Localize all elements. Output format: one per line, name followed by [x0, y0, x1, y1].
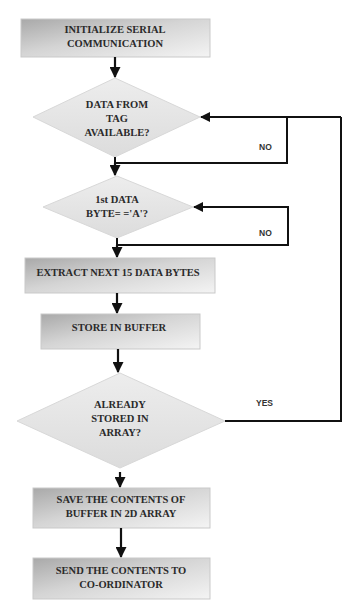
- node-label: STORED IN: [91, 413, 149, 424]
- edge-label-no: NO: [259, 228, 272, 238]
- node-label: EXTRACT NEXT 15 DATA BYTES: [36, 267, 199, 278]
- node-label: DATA FROM: [86, 99, 148, 110]
- node-label: CO-ORDINATOR: [79, 579, 163, 590]
- edge-label-no: NO: [259, 142, 272, 152]
- node-label: SEND THE CONTENTS TO: [56, 565, 186, 576]
- process-initialize-serial: INITIALIZE SERIAL COMMUNICATION: [21, 19, 210, 57]
- process-extract-bytes: EXTRACT NEXT 15 DATA BYTES: [25, 258, 215, 293]
- flowchart: INITIALIZE SERIAL COMMUNICATION DATA FRO…: [0, 0, 358, 609]
- node-label: INITIALIZE SERIAL: [64, 24, 165, 35]
- node-label: STORE IN BUFFER: [72, 322, 167, 333]
- node-label: COMMUNICATION: [67, 38, 163, 49]
- edge-label-yes: YES: [256, 398, 273, 408]
- node-label: 1st DATA: [95, 194, 139, 205]
- node-label: ARRAY?: [99, 427, 141, 438]
- node-label: TAG: [106, 113, 128, 124]
- decision-first-byte: 1st DATA BYTE= ='A'?: [43, 176, 193, 238]
- node-label: BUFFER IN 2D ARRAY: [66, 508, 177, 519]
- node-label: BYTE= ='A'?: [86, 208, 148, 219]
- node-label: ALREADY: [94, 399, 146, 410]
- decision-data-available: DATA FROM TAG AVAILABLE?: [33, 78, 200, 157]
- node-label: AVAILABLE?: [85, 127, 150, 138]
- process-save-array: SAVE THE CONTENTS OF BUFFER IN 2D ARRAY: [33, 488, 210, 528]
- process-store-buffer: STORE IN BUFFER: [41, 314, 200, 349]
- process-send-coordinator: SEND THE CONTENTS TO CO-ORDINATOR: [33, 558, 210, 599]
- node-label: SAVE THE CONTENTS OF: [57, 494, 186, 505]
- decision-already-stored: ALREADY STORED IN ARRAY?: [17, 373, 225, 468]
